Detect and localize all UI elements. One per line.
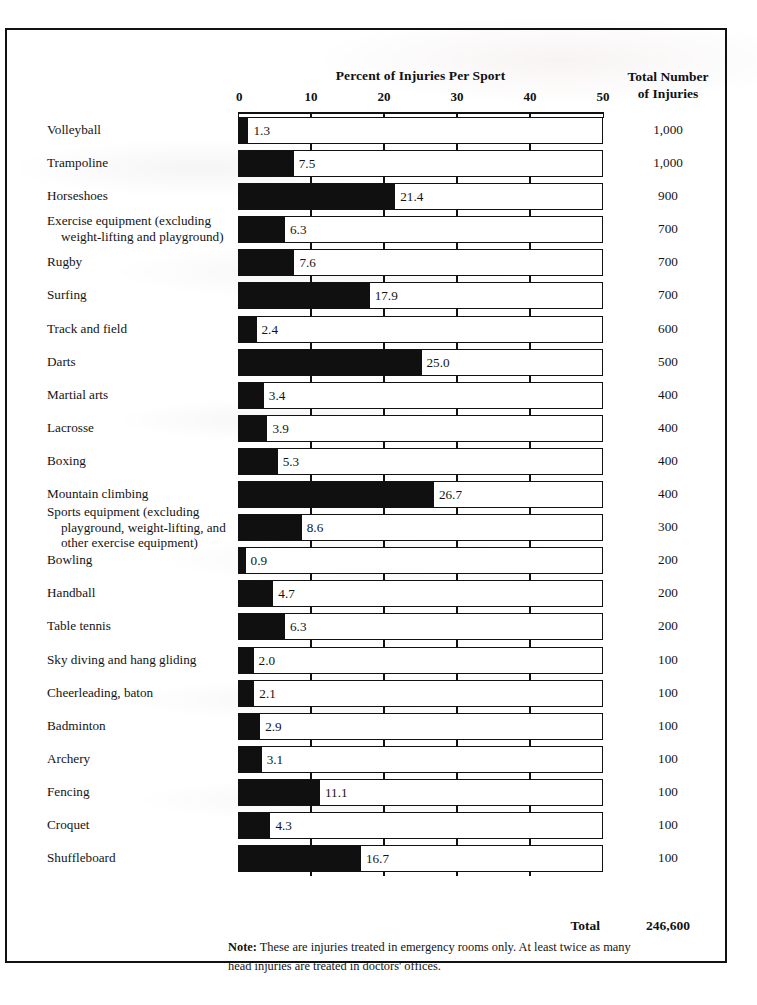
bar-gridtick-40: [529, 179, 530, 183]
bar-gridtick-40: [529, 113, 530, 117]
bar-gridtick-40: [529, 872, 530, 876]
row-label-line: Fencing: [47, 784, 232, 800]
row-label-line: Lacrosse: [47, 420, 232, 436]
bar-gridtick-40: [529, 643, 530, 647]
x-axis-label-0: 0: [236, 89, 243, 105]
bar-gridtick-30: [456, 543, 457, 547]
bar-fill: [239, 681, 254, 706]
chart-row: Track and field2.4600: [0, 314, 757, 347]
total-number-header-line1: Total Number: [612, 68, 724, 85]
row-label: Rugby: [47, 254, 232, 270]
bar-value-label: 1.3: [253, 123, 269, 139]
bar-fill: [239, 581, 273, 606]
bar-gridtick-20: [383, 775, 384, 779]
bar-gridtick-10: [310, 609, 311, 613]
bar-fill: [239, 714, 260, 739]
bar-gridtick-30: [456, 742, 457, 746]
row-total-injuries: 400: [612, 453, 724, 469]
bar-gridtick-10: [310, 742, 311, 746]
bar-gridtick-20: [383, 378, 384, 382]
bar-gridtick-20: [383, 146, 384, 150]
bar-gridtick-20: [383, 808, 384, 812]
row-label-line: Martial arts: [47, 387, 232, 403]
bar-gridtick-40: [529, 444, 530, 448]
bar-gridtick-10: [310, 312, 311, 316]
x-axis: 01020304050: [238, 112, 603, 113]
bar-fill: [239, 482, 434, 507]
row-label: Exercise equipment (excludingweight-lift…: [47, 213, 232, 244]
x-axis-label-40: 40: [524, 89, 537, 105]
row-label-line: Exercise equipment (excluding: [47, 213, 232, 229]
footnote-text: These are injuries treated in emergency …: [228, 940, 631, 973]
row-total-injuries: 1,000: [612, 122, 724, 138]
row-label-line: Rugby: [47, 254, 232, 270]
bar-gridtick-10: [310, 808, 311, 812]
bar-gridtick-10: [310, 146, 311, 150]
bar-gridtick-40: [529, 245, 530, 249]
bar-gridtick-40: [529, 609, 530, 613]
bar-gridtick-10: [310, 510, 311, 514]
chart-row: Shuffleboard16.7100: [0, 843, 757, 876]
bar-gridtick-30: [456, 775, 457, 779]
footnote-prefix: Note:: [228, 940, 257, 954]
bar-fill: [239, 846, 361, 871]
chart-row: Cheerleading, baton2.1100: [0, 678, 757, 711]
bar-fill: [239, 118, 248, 143]
chart-row: Darts25.0500: [0, 347, 757, 380]
chart-title: Percent of Injuries Per Sport: [238, 68, 603, 84]
row-label-line: Badminton: [47, 718, 232, 734]
x-axis-label-20: 20: [378, 89, 391, 105]
chart-row: Fencing11.1100: [0, 777, 757, 810]
row-label: Fencing: [47, 784, 232, 800]
row-label: Track and field: [47, 321, 232, 337]
bar-value-label: 7.6: [299, 255, 315, 271]
bar-fill: [239, 515, 302, 540]
row-total-injuries: 200: [612, 552, 724, 568]
bar-value-label: 3.1: [267, 752, 283, 768]
bar-gridtick-20: [383, 278, 384, 282]
bar-gridtick-10: [310, 543, 311, 547]
bar-gridtick-20: [383, 609, 384, 613]
row-total-injuries: 100: [612, 652, 724, 668]
bar-fill: [239, 317, 257, 342]
bar-gridtick-40: [529, 378, 530, 382]
bar-gridtick-40: [529, 841, 530, 845]
bar-gridtick-40: [529, 345, 530, 349]
row-label: Badminton: [47, 718, 232, 734]
chart-row: Handball4.7200: [0, 578, 757, 611]
chart-row: Surfing17.9700: [0, 280, 757, 313]
row-total-injuries: 700: [612, 254, 724, 270]
bar-gridtick-20: [383, 709, 384, 713]
row-label-line: Surfing: [47, 287, 232, 303]
bar-gridtick-40: [529, 411, 530, 415]
bar-gridtick-20: [383, 411, 384, 415]
row-label-line: Table tennis: [47, 618, 232, 634]
bar-fill: [239, 416, 267, 441]
bar-track: 4.3: [238, 812, 603, 839]
bar-gridtick-40: [529, 775, 530, 779]
row-total-injuries: 500: [612, 354, 724, 370]
row-label: Martial arts: [47, 387, 232, 403]
bar-gridtick-30: [456, 179, 457, 183]
bar-fill: [239, 449, 278, 474]
row-total-injuries: 100: [612, 751, 724, 767]
row-total-injuries: 100: [612, 850, 724, 866]
x-axis-label-10: 10: [305, 89, 318, 105]
bar-gridtick-20: [383, 477, 384, 481]
chart-row: Croquet4.3100: [0, 810, 757, 843]
bar-gridtick-40: [529, 808, 530, 812]
bar-value-label: 3.4: [269, 388, 285, 404]
bar-gridtick-30: [456, 345, 457, 349]
row-label: Handball: [47, 585, 232, 601]
bar-track: 3.1: [238, 746, 603, 773]
bar-value-label: 8.6: [307, 520, 323, 536]
row-label: Lacrosse: [47, 420, 232, 436]
bar-value-label: 11.1: [325, 785, 348, 801]
bar-value-label: 4.3: [275, 818, 291, 834]
row-label-line: Boxing: [47, 453, 232, 469]
bar-gridtick-10: [310, 278, 311, 282]
bar-value-label: 5.3: [283, 454, 299, 470]
row-label-line: Trampoline: [47, 155, 232, 171]
row-total-injuries: 100: [612, 784, 724, 800]
bar-fill: [239, 813, 270, 838]
